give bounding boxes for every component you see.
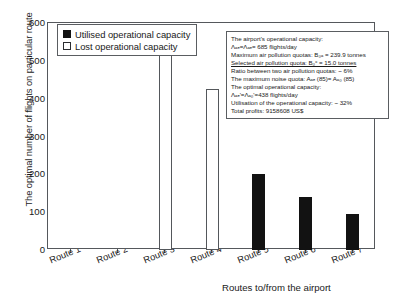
annotation-line: Total profits: 9158608 US$ (231, 107, 385, 115)
annotation-line: Λₐₑ=Λₐₑ= 685 flights/day (231, 43, 385, 51)
legend-item: Lost operational capacity (63, 40, 190, 52)
bar-utilised-route-5 (252, 174, 265, 250)
legend-label: Lost operational capacity (75, 41, 177, 52)
annotation-line: Selected air pollution quota: B₀ᶜ = 15.0… (231, 59, 385, 67)
y-axis-tick-label: 100 (15, 206, 45, 217)
annotation-line: Maximum air pollution quotas: B₀ₐ = 239.… (231, 51, 385, 59)
legend-swatch-icon (63, 42, 71, 50)
annotation-line: The airport's operational capacity: (231, 35, 385, 43)
bar-utilised-route-6 (299, 197, 312, 250)
y-axis-tick-label: 200 (15, 168, 45, 179)
y-axis-tick-label: 0 (15, 244, 45, 255)
legend-swatch-icon (63, 30, 71, 38)
annotation-line: Λₐₑ'=Λₐ₀'=438 flights/day (231, 91, 385, 99)
bar-utilised-route-7 (346, 214, 359, 250)
chart-legend: Utilised operational capacityLost operat… (57, 24, 197, 56)
legend-label: Utilised operational capacity (75, 29, 190, 40)
legend-item: Utilised operational capacity (63, 28, 190, 40)
bar-lost-route-4 (206, 89, 219, 250)
y-axis-tick-label: 600 (15, 17, 45, 28)
annotation-line: The maximum noise quota: Aₐₑ (85)= Aₐ₀ (… (231, 75, 385, 83)
chart-figure: The optimal number of flights on particu… (0, 0, 397, 307)
annotation-box: The airport's operational capacity:Λₐₑ=Λ… (226, 31, 389, 119)
x-axis-title: Routes to/from the airport (222, 282, 331, 293)
bar-lost-route-3 (159, 49, 172, 250)
annotation-line: Utilisation of the operational capacity:… (231, 99, 385, 107)
y-axis-title: The optimal number of flights on particu… (23, 0, 34, 235)
y-axis-tick-label: 400 (15, 92, 45, 103)
y-axis-tick-label: 300 (15, 130, 45, 141)
annotation-line: Ratio between two air pollution quotas: … (231, 67, 385, 75)
annotation-line: The optimal operational capacity: (231, 83, 385, 91)
y-axis-tick-label: 500 (15, 54, 45, 65)
